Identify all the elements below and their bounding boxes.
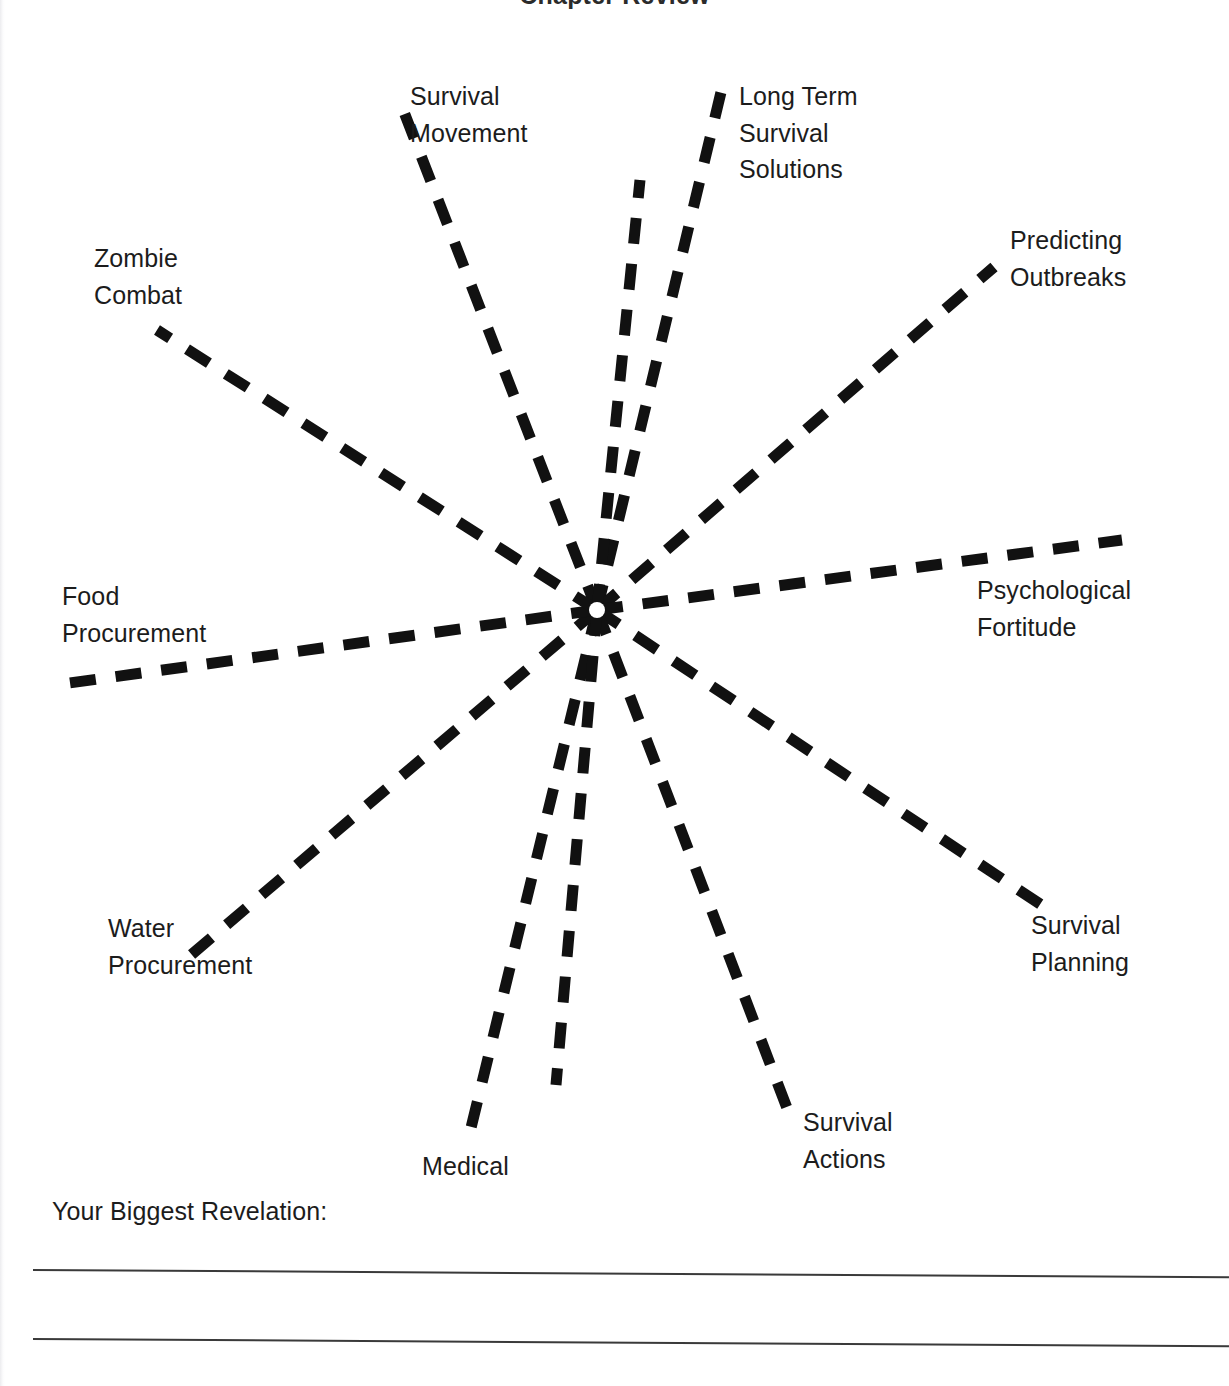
- revelation-prompt: Your Biggest Revelation:: [52, 1197, 327, 1226]
- spoke-line-survival-actions: [597, 610, 790, 1116]
- spoke-line-survival-movement: [404, 112, 597, 610]
- spoke-label-survival-actions[interactable]: Survival Actions: [803, 1104, 893, 1177]
- spoke-diagram: Survival MovementLong Term Survival Solu…: [0, 0, 1229, 1240]
- spoke-line-medical: [470, 610, 597, 1132]
- revelation-write-line-2[interactable]: [33, 1338, 1229, 1347]
- spoke-line-water-procurement: [191, 610, 597, 955]
- spoke-line-unlabeled-upper: [597, 180, 640, 610]
- spoke-label-zombie-combat[interactable]: Zombie Combat: [94, 240, 182, 313]
- spoke-label-psychological-fortitude[interactable]: Psychological Fortitude: [977, 572, 1131, 645]
- revelation-write-line-1[interactable]: [33, 1269, 1229, 1278]
- spoke-label-predicting-outbreaks[interactable]: Predicting Outbreaks: [1010, 222, 1126, 295]
- worksheet-page: Chapter Review Survival MovementLong Ter…: [0, 0, 1229, 1386]
- spoke-label-food-procurement[interactable]: Food Procurement: [62, 578, 206, 651]
- spoke-label-survival-movement[interactable]: Survival Movement: [410, 78, 528, 151]
- spoke-line-long-term-survival-solutions: [597, 88, 722, 610]
- spoke-line-zombie-combat: [157, 330, 597, 610]
- spoke-line-survival-planning: [597, 610, 1046, 908]
- spoke-label-water-procurement[interactable]: Water Procurement: [108, 910, 252, 983]
- diagram-hub: [589, 602, 605, 618]
- spoke-line-unlabeled-lower: [556, 610, 597, 1085]
- spoke-label-survival-planning[interactable]: Survival Planning: [1031, 907, 1129, 980]
- spoke-label-medical[interactable]: Medical: [422, 1148, 509, 1185]
- spoke-label-long-term-survival-solutions[interactable]: Long Term Survival Solutions: [739, 78, 858, 188]
- spoke-line-predicting-outbreaks: [597, 267, 994, 610]
